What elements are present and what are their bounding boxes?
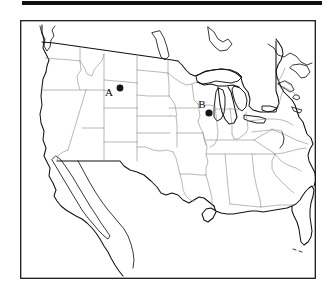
page-root: A B — [0, 0, 334, 293]
marker-dot-b[interactable] — [205, 109, 212, 116]
marker-label-a: A — [105, 86, 113, 98]
page-top-rule — [22, 1, 322, 5]
us-map-svg: A B — [20, 20, 316, 279]
us-map-figure: A B — [20, 20, 316, 279]
marker-label-b: B — [198, 98, 205, 110]
marker-dot-a[interactable] — [117, 85, 124, 92]
